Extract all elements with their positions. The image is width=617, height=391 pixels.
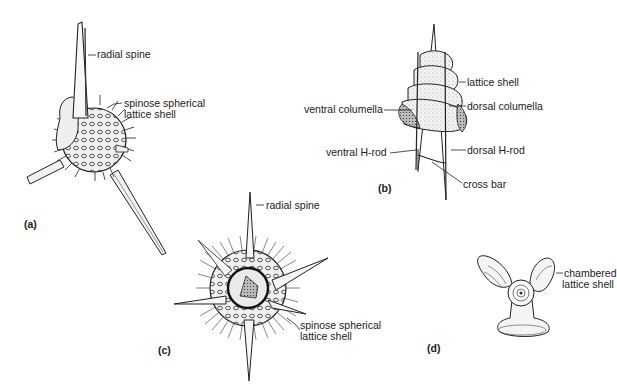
specimen-b bbox=[384, 24, 467, 200]
panel-label-a: (a) bbox=[24, 218, 37, 230]
label-a-radial-spine: radial spine bbox=[97, 49, 151, 60]
label-b-ventral-columella: ventral columella bbox=[304, 104, 383, 115]
label-b-cross-bar: cross bar bbox=[463, 179, 506, 190]
panel-label-d: (d) bbox=[427, 342, 440, 354]
label-b-ventral-h-rod: ventral H-rod bbox=[326, 147, 387, 158]
panel-label-b: (b) bbox=[378, 182, 391, 194]
label-b-dorsal-h-rod: dorsal H-rod bbox=[467, 145, 525, 156]
label-c-shell-line2: lattice shell bbox=[300, 331, 352, 342]
label-a-shell-line2: lattice shell bbox=[124, 109, 176, 120]
label-b-dorsal-columella: dorsal columella bbox=[467, 101, 543, 112]
label-d-shell-line2: lattice shell bbox=[562, 279, 614, 290]
label-b-lattice-shell: lattice shell bbox=[467, 77, 519, 88]
panel-label-c: (c) bbox=[158, 344, 171, 356]
specimen-c bbox=[174, 192, 328, 381]
label-c-radial-spine: radial spine bbox=[266, 200, 320, 211]
specimen-d bbox=[478, 256, 563, 337]
